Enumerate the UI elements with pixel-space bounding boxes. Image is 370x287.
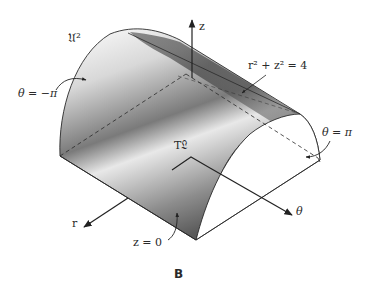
cylinder-equation-label: r² + z² = 4 [248, 60, 307, 71]
figure-caption: B [174, 268, 183, 280]
base-equation-label: z = 0 [133, 237, 162, 248]
r-axis-label: r [72, 218, 77, 229]
theta-pos-label: θ = π [322, 127, 352, 138]
surface-name-label: 𝔘² [68, 32, 81, 44]
tangent-label: T𝔏 [174, 140, 188, 151]
r-axis [84, 198, 128, 227]
theta-axis-label: θ [296, 206, 303, 217]
theta-neg-label: θ = −π [18, 88, 57, 99]
z-axis-label: z [199, 21, 205, 32]
